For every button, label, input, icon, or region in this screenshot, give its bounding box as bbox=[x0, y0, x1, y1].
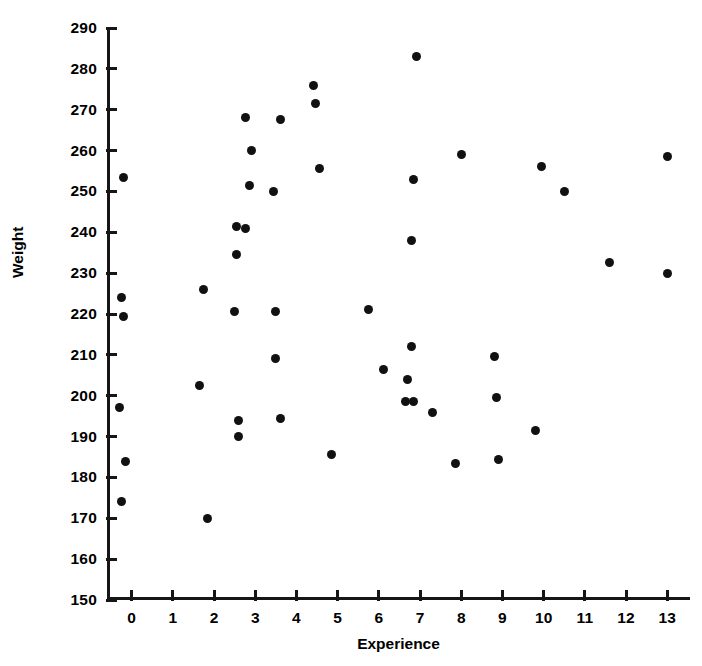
y-tick-label-230: 230 bbox=[71, 265, 97, 281]
x-tick-label-3: 3 bbox=[251, 610, 260, 626]
y-tick-200: 200 bbox=[106, 394, 117, 397]
y-tick-270: 270 bbox=[106, 108, 117, 111]
data-point bbox=[315, 164, 324, 173]
data-point bbox=[230, 307, 239, 316]
data-point bbox=[537, 162, 546, 171]
data-point bbox=[199, 285, 208, 294]
y-tick-170: 170 bbox=[106, 517, 117, 520]
y-tick-label-180: 180 bbox=[71, 470, 97, 486]
x-tick-label-6: 6 bbox=[375, 610, 384, 626]
x-tick-label-1: 1 bbox=[169, 610, 178, 626]
x-tick-4: 4 bbox=[295, 590, 298, 601]
x-tick-label-0: 0 bbox=[127, 610, 136, 626]
data-point bbox=[457, 150, 466, 159]
data-point bbox=[276, 115, 285, 124]
x-tick-label-9: 9 bbox=[498, 610, 507, 626]
y-tick-label-160: 160 bbox=[71, 551, 97, 567]
data-point bbox=[247, 146, 256, 155]
x-tick-label-4: 4 bbox=[292, 610, 301, 626]
data-point bbox=[115, 403, 124, 412]
y-tick-label-190: 190 bbox=[71, 429, 97, 445]
data-point bbox=[663, 269, 672, 278]
x-tick-2: 2 bbox=[213, 590, 216, 601]
data-point bbox=[409, 397, 418, 406]
x-tick-label-13: 13 bbox=[659, 610, 677, 626]
data-point bbox=[271, 354, 280, 363]
data-point bbox=[364, 305, 373, 314]
data-point bbox=[245, 181, 254, 190]
x-tick-8: 8 bbox=[460, 590, 463, 601]
data-point bbox=[407, 236, 416, 245]
x-tick-7: 7 bbox=[419, 590, 422, 601]
x-tick-3: 3 bbox=[254, 590, 257, 601]
data-point bbox=[121, 457, 130, 466]
data-point bbox=[271, 307, 280, 316]
x-tick-6: 6 bbox=[377, 590, 380, 601]
y-tick-160: 160 bbox=[106, 558, 117, 561]
x-tick-5: 5 bbox=[336, 590, 339, 601]
y-tick-290: 290 bbox=[106, 27, 117, 30]
data-point bbox=[269, 187, 278, 196]
data-point bbox=[490, 352, 499, 361]
y-tick-150: 150 bbox=[106, 599, 117, 602]
y-tick-label-240: 240 bbox=[71, 225, 97, 241]
data-point bbox=[560, 187, 569, 196]
x-tick-label-11: 11 bbox=[577, 610, 594, 626]
y-tick-240: 240 bbox=[106, 231, 117, 234]
x-tick-label-8: 8 bbox=[457, 610, 466, 626]
x-tick-label-10: 10 bbox=[535, 610, 553, 626]
x-tick-12: 12 bbox=[625, 590, 628, 601]
data-point bbox=[663, 152, 672, 161]
y-tick-220: 220 bbox=[106, 313, 117, 316]
data-point bbox=[412, 52, 421, 61]
data-point bbox=[117, 497, 126, 506]
data-point bbox=[195, 381, 204, 390]
data-point bbox=[327, 450, 336, 459]
y-tick-label-200: 200 bbox=[71, 388, 97, 404]
y-tick-label-280: 280 bbox=[71, 61, 97, 77]
data-point bbox=[203, 514, 212, 523]
data-point bbox=[409, 175, 418, 184]
x-tick-1: 1 bbox=[171, 590, 174, 601]
x-tick-label-7: 7 bbox=[416, 610, 425, 626]
y-tick-180: 180 bbox=[106, 476, 117, 479]
data-point bbox=[309, 81, 318, 90]
y-tick-230: 230 bbox=[106, 272, 117, 275]
y-tick-280: 280 bbox=[106, 67, 117, 70]
scatter-chart: 1501601701801902002102202302402502602702… bbox=[0, 0, 702, 666]
x-tick-13: 13 bbox=[666, 590, 669, 601]
y-axis-title: Weight bbox=[10, 227, 26, 278]
data-point bbox=[232, 222, 241, 231]
y-tick-190: 190 bbox=[106, 435, 117, 438]
data-point bbox=[428, 408, 437, 417]
data-point bbox=[403, 375, 412, 384]
y-tick-label-290: 290 bbox=[71, 20, 97, 36]
y-tick-label-210: 210 bbox=[71, 347, 97, 363]
x-tick-9: 9 bbox=[501, 590, 504, 601]
y-tick-label-170: 170 bbox=[71, 511, 97, 527]
y-tick-260: 260 bbox=[106, 149, 117, 152]
data-point bbox=[117, 293, 126, 302]
x-tick-label-2: 2 bbox=[210, 610, 219, 626]
data-point bbox=[494, 455, 503, 464]
data-point bbox=[241, 113, 250, 122]
data-point bbox=[232, 250, 241, 259]
x-tick-11: 11 bbox=[583, 590, 586, 601]
x-tick-0: 0 bbox=[130, 590, 133, 601]
data-point bbox=[407, 342, 416, 351]
data-point bbox=[492, 393, 501, 402]
data-point bbox=[531, 426, 540, 435]
data-point bbox=[241, 224, 250, 233]
data-point bbox=[234, 432, 243, 441]
plot-area: 1501601701801902002102202302402502602702… bbox=[107, 28, 690, 600]
y-tick-label-220: 220 bbox=[71, 306, 97, 322]
data-point bbox=[276, 414, 285, 423]
y-tick-label-250: 250 bbox=[71, 184, 97, 200]
data-point bbox=[379, 365, 388, 374]
data-point bbox=[119, 312, 128, 321]
y-tick-210: 210 bbox=[106, 353, 117, 356]
data-point bbox=[311, 99, 320, 108]
data-point bbox=[119, 173, 128, 182]
x-tick-10: 10 bbox=[542, 590, 545, 601]
x-axis-title: Experience bbox=[107, 636, 690, 652]
